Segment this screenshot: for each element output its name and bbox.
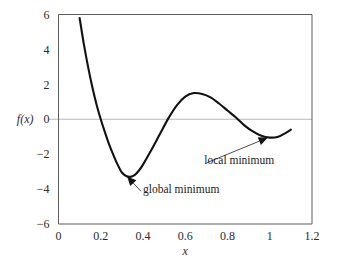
x-axis-label-text: x bbox=[182, 244, 189, 258]
x-tick-label: 1 bbox=[267, 229, 273, 243]
x-tick-label: 0.4 bbox=[136, 229, 151, 243]
annotation-label: local minimum bbox=[204, 154, 274, 166]
x-tick-label: 0.6 bbox=[178, 229, 193, 243]
function-plot: 6420−2−4−6 00.20.40.60.811.2 f(x) x glob… bbox=[0, 0, 340, 272]
y-tick-label: −2 bbox=[37, 147, 50, 161]
y-tick-label: 2 bbox=[44, 78, 50, 92]
x-tick-label: 0.2 bbox=[93, 229, 108, 243]
annotation-label: global minimum bbox=[143, 183, 219, 196]
x-axis-title: x bbox=[182, 244, 189, 258]
plot-background bbox=[0, 0, 340, 272]
x-tick-label: 0.8 bbox=[220, 229, 235, 243]
y-axis-title: f(x) bbox=[17, 112, 34, 126]
y-tick-label: 4 bbox=[44, 43, 50, 57]
y-tick-label: 6 bbox=[44, 8, 50, 22]
y-tick-label: −4 bbox=[37, 182, 50, 196]
figure-container: 6420−2−4−6 00.20.40.60.811.2 f(x) x glob… bbox=[0, 0, 340, 272]
x-tick-label: 0 bbox=[56, 229, 62, 243]
y-axis-label-text: f(x) bbox=[17, 112, 34, 126]
x-tick-label: 1.2 bbox=[305, 229, 320, 243]
y-tick-label: −6 bbox=[37, 217, 50, 231]
y-tick-label: 0 bbox=[44, 112, 50, 126]
